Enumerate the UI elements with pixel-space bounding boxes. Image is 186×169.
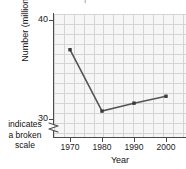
data-series-layer — [0, 0, 186, 169]
series-markers — [68, 48, 167, 113]
data-point-1990 — [132, 101, 135, 104]
data-point-2000 — [164, 95, 167, 98]
line-chart-figure: | 40 30 1970 1980 1990 2000 Number (mill… — [0, 0, 186, 169]
data-point-1970 — [68, 48, 71, 51]
data-point-1980 — [100, 109, 103, 112]
series-line — [70, 50, 166, 111]
